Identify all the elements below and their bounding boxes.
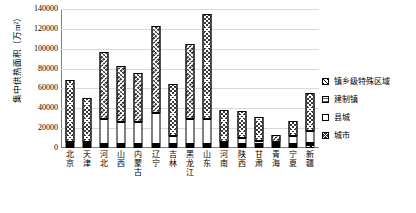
x-tick-label: 吉林	[167, 150, 178, 168]
bar-stack[interactable]	[82, 98, 91, 148]
bar-segment-county[interactable]	[99, 119, 108, 144]
bar-slot[interactable]	[164, 9, 181, 148]
legend-item[interactable]: 镇乡级特殊区域	[322, 72, 416, 90]
bar-slot[interactable]	[199, 9, 216, 148]
plot-area	[61, 9, 319, 148]
y-tick-label: 20000	[14, 124, 58, 132]
bar-segment-county[interactable]	[151, 113, 160, 144]
bar-segment-city[interactable]	[306, 93, 315, 131]
y-axis-tick-labels: 020000400006000080000100000120000140000	[14, 0, 58, 155]
bar-slot[interactable]	[250, 9, 267, 148]
bar-stack[interactable]	[134, 73, 143, 148]
bar-segment-county[interactable]	[134, 122, 143, 144]
bar-segment-special[interactable]	[134, 146, 143, 148]
bar-segment-county[interactable]	[185, 119, 194, 144]
x-tick-label: 黑龙江	[185, 150, 196, 177]
bar-segment-special[interactable]	[168, 146, 177, 148]
bar-segment-city[interactable]	[271, 135, 280, 142]
bar-segment-special[interactable]	[117, 146, 126, 148]
bar-stack[interactable]	[151, 26, 160, 148]
y-tick-label: 120000	[14, 25, 58, 33]
legend-item[interactable]: 城市	[322, 126, 416, 144]
legend-swatch-special-icon	[322, 78, 329, 85]
bar-slot[interactable]	[113, 9, 130, 148]
y-tick-label: 100000	[14, 45, 58, 53]
bar-segment-city[interactable]	[82, 98, 91, 142]
bar-segment-city[interactable]	[237, 111, 246, 138]
bar-stack[interactable]	[237, 111, 246, 148]
bar-segment-special[interactable]	[271, 146, 280, 148]
bar-segment-special[interactable]	[151, 146, 160, 148]
x-tick-label: 天津	[81, 150, 92, 168]
y-tick-label: 60000	[14, 84, 58, 92]
bar-slot[interactable]	[130, 9, 147, 148]
bar-segment-city[interactable]	[220, 110, 229, 142]
bar-segment-city[interactable]	[151, 26, 160, 113]
x-tick-label: 甘肃	[253, 150, 264, 168]
bar-stack[interactable]	[254, 117, 263, 148]
bar-segment-city[interactable]	[117, 66, 126, 123]
x-axis-tick-labels: 北京天津河北山西内蒙古辽宁吉林黑龙江山东河南陕西甘肃青海宁夏新疆	[61, 150, 319, 212]
bar-segment-city[interactable]	[254, 117, 263, 141]
x-tick-label: 陕西	[236, 150, 247, 168]
bar-segment-county[interactable]	[306, 131, 315, 143]
bar-slot[interactable]	[181, 9, 198, 148]
x-tick-label: 新疆	[305, 150, 316, 168]
bar-slot[interactable]	[147, 9, 164, 148]
x-tick-label: 山西	[116, 150, 127, 168]
legend-swatch-city-icon	[322, 132, 329, 139]
bar-segment-special[interactable]	[99, 146, 108, 148]
legend-label: 镇乡级特殊区域	[334, 77, 390, 86]
legend-label: 县城	[334, 113, 350, 122]
bar-segment-special[interactable]	[82, 146, 91, 148]
bar-stack[interactable]	[117, 66, 126, 148]
bar-segment-special[interactable]	[185, 146, 194, 148]
bar-slot[interactable]	[302, 9, 319, 148]
y-tick-label: 0	[14, 144, 58, 152]
legend-item[interactable]: 县城	[322, 108, 416, 126]
bar-segment-special[interactable]	[203, 146, 212, 148]
bar-stack[interactable]	[203, 14, 212, 148]
bar-segment-special[interactable]	[254, 146, 263, 148]
bar-slot[interactable]	[61, 9, 78, 148]
bar-stack[interactable]	[306, 93, 315, 148]
bar-stack[interactable]	[185, 44, 194, 148]
bar-slot[interactable]	[95, 9, 112, 148]
bar-stack[interactable]	[99, 52, 108, 148]
legend-label: 城市	[334, 131, 350, 140]
bar-stack[interactable]	[168, 84, 177, 148]
bar-segment-special[interactable]	[237, 146, 246, 148]
y-tick-label: 140000	[14, 5, 58, 13]
bar-segment-city[interactable]	[65, 80, 74, 142]
bar-segment-city[interactable]	[185, 44, 194, 119]
legend-swatch-county-icon	[322, 114, 329, 121]
bar-segment-county[interactable]	[203, 119, 212, 144]
bar-segment-county[interactable]	[168, 136, 177, 144]
bar-slot[interactable]	[285, 9, 302, 148]
legend-swatch-town-icon	[322, 96, 329, 103]
bar-segment-county[interactable]	[117, 122, 126, 144]
bar-segment-county[interactable]	[289, 136, 298, 144]
bar-stack[interactable]	[271, 135, 280, 148]
bar-stack[interactable]	[65, 80, 74, 148]
bar-slot[interactable]	[267, 9, 284, 148]
bar-segment-city[interactable]	[134, 73, 143, 123]
bar-segment-special[interactable]	[289, 146, 298, 148]
bar-slot[interactable]	[233, 9, 250, 148]
bar-segment-city[interactable]	[168, 84, 177, 136]
bar-segment-special[interactable]	[220, 146, 229, 148]
bar-stack[interactable]	[289, 121, 298, 148]
bar-segment-special[interactable]	[65, 146, 74, 148]
bar-segment-city[interactable]	[99, 52, 108, 120]
legend-item[interactable]: 建制镇	[322, 90, 416, 108]
bar-chart: 集中供热面积（万m²） 0200004000060000800001000001…	[0, 0, 416, 213]
bar-segment-city[interactable]	[203, 14, 212, 118]
x-tick-label: 青海	[271, 150, 282, 168]
bar-slot[interactable]	[216, 9, 233, 148]
x-tick-label: 山东	[202, 150, 213, 168]
x-tick-label: 河南	[219, 150, 230, 168]
bar-segment-special[interactable]	[306, 145, 315, 148]
bar-segment-city[interactable]	[289, 121, 298, 136]
bar-stack[interactable]	[220, 110, 229, 148]
bar-slot[interactable]	[78, 9, 95, 148]
